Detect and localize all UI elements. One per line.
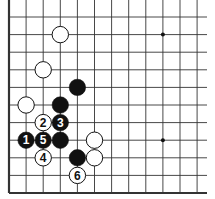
white-stone — [86, 150, 102, 166]
white-stone-move-4: 4 — [35, 150, 51, 166]
black-stone-move-3: 3 — [52, 114, 68, 130]
white-stone-icon — [35, 62, 51, 78]
move-number-label: 2 — [40, 116, 47, 130]
star-point-icon — [161, 33, 165, 37]
white-stone-icon — [86, 150, 102, 166]
star-point-icon — [161, 138, 165, 142]
white-stone-icon — [52, 26, 68, 42]
white-stone — [18, 97, 34, 113]
white-stone-icon — [86, 132, 102, 148]
move-number-label: 3 — [57, 116, 64, 130]
black-stone — [52, 132, 68, 148]
black-stone — [52, 97, 68, 113]
black-stone-icon — [52, 97, 68, 113]
black-stone — [69, 150, 85, 166]
move-number-label: 5 — [40, 133, 47, 147]
white-stone — [52, 26, 68, 42]
white-stone-move-2: 2 — [35, 114, 51, 130]
black-stone — [69, 79, 85, 95]
black-stone-icon — [69, 150, 85, 166]
black-stone-icon — [69, 79, 85, 95]
black-stone-move-5: 5 — [35, 132, 51, 148]
black-stone-move-1: 1 — [18, 132, 34, 148]
white-stone — [35, 62, 51, 78]
black-stone-icon — [52, 132, 68, 148]
move-number-label: 6 — [74, 169, 81, 183]
white-stone-icon — [18, 97, 34, 113]
move-number-label: 1 — [23, 133, 30, 147]
white-stone-move-6: 6 — [69, 167, 85, 183]
white-stone — [86, 132, 102, 148]
go-board-diagram: 231546 — [0, 0, 215, 199]
move-number-label: 4 — [40, 151, 47, 165]
